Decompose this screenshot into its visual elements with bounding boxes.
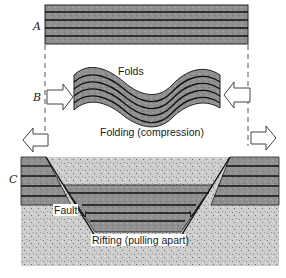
panel-a-flat-layers [45,5,248,44]
panel-b-folded-layers [74,67,220,126]
arrow-right-icon [251,126,276,150]
arrow-right-icon [47,84,73,110]
folding-compression-label: Folding (compression) [100,126,204,138]
arrow-left-icon [224,82,250,108]
folds-label: Folds [118,65,144,77]
geology-diagram: A Folds B Folding (compression) [0,0,286,278]
panel-label-c: C [9,173,18,186]
panel-label-a: A [32,20,41,33]
rifting-label: Rifting (pulling apart) [92,234,189,246]
panel-label-b: B [32,91,41,104]
fault-label: Fault [54,204,77,216]
arrow-left-icon [23,128,48,152]
